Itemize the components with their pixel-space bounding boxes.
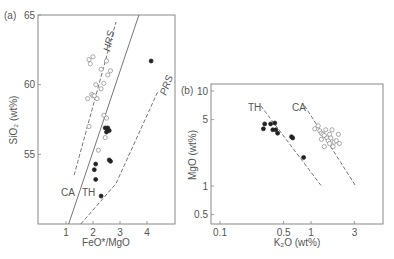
filled-circle-marker [269, 122, 273, 126]
y-tick-label: 0.5 [194, 209, 208, 220]
open-circle-marker [94, 83, 98, 87]
open-circle-marker [108, 69, 112, 73]
open-circle-marker [87, 58, 91, 62]
open-circle-marker [336, 132, 340, 136]
y-tick-label: 60 [24, 79, 36, 90]
th-annotation-b: TH [248, 102, 261, 113]
open-circle-marker [88, 62, 92, 66]
panel-a-ylabel: SiO₂ (wt%) [8, 96, 19, 145]
x-tick-label: 1 [63, 227, 69, 238]
y-tick-label: 10 [197, 86, 209, 97]
y-tick-label: 55 [24, 149, 36, 160]
filled-circle-marker [276, 131, 280, 135]
filled-circle-marker [263, 122, 267, 126]
y-tick-label: 65 [24, 10, 36, 21]
panel-b: 0.10.5130.51510 (b) K₂O (wt%) MgO (wt%) … [181, 84, 383, 248]
open-circle-marker [99, 87, 103, 91]
panel-b-label: (b) [181, 85, 193, 96]
x-tick-label: 3 [352, 227, 358, 238]
filled-circle-marker [109, 159, 113, 163]
panel-b-points [261, 121, 341, 159]
open-circle-marker [99, 67, 103, 71]
filled-circle-marker [261, 127, 265, 131]
panel-a-xlabel: FeO*/MgO [82, 237, 130, 248]
filled-circle-marker [107, 129, 111, 133]
filled-circle-marker [273, 121, 277, 125]
x-tick-label: 4 [144, 227, 150, 238]
prs-annotation: PRS [158, 73, 175, 96]
open-circle-marker [102, 81, 106, 85]
open-circle-marker [92, 94, 96, 98]
open-circle-marker [324, 128, 328, 132]
hrs-annotation: HRS [101, 29, 116, 52]
open-circle-marker [106, 73, 110, 77]
panel-a-label: (a) [4, 10, 16, 21]
ca-annotation-b: CA [292, 102, 306, 113]
x-tick-label: 0.1 [213, 227, 227, 238]
open-circle-marker [104, 116, 108, 120]
open-circle-marker [331, 145, 335, 149]
open-circle-marker [330, 128, 334, 132]
panel-b-xlabel: K₂O (wt%) [274, 237, 321, 248]
filled-circle-marker [302, 155, 306, 159]
open-circle-marker [337, 141, 341, 145]
ca-annotation-a: CA [61, 187, 75, 198]
panel-b-ylabel: MgO (wt%) [187, 130, 198, 180]
figure: 1234556065 (a) FeO*/MgO SiO₂ (wt%) HRS P… [0, 0, 394, 259]
open-circle-marker [91, 55, 95, 59]
th-annotation-a: TH [82, 187, 95, 198]
panel-b-lines [261, 106, 356, 186]
filled-circle-marker [99, 194, 103, 198]
open-circle-marker [329, 136, 333, 140]
y-tick-label: 1 [202, 181, 208, 192]
filled-circle-marker [92, 168, 96, 172]
panel-b-ticks: 0.10.5130.51510 [194, 86, 358, 239]
open-circle-marker [316, 124, 320, 128]
open-circle-marker [328, 141, 332, 145]
open-circle-marker [86, 97, 90, 101]
open-circle-marker [322, 145, 326, 149]
open-circle-marker [87, 124, 91, 128]
open-circle-marker [104, 59, 108, 63]
open-circle-marker [103, 136, 107, 140]
filled-circle-marker [94, 177, 98, 181]
open-circle-marker [96, 148, 100, 152]
filled-circle-marker [291, 136, 295, 140]
open-circle-marker [313, 127, 317, 131]
y-tick-label: 5 [202, 114, 208, 125]
panel-a: 1234556065 (a) FeO*/MgO SiO₂ (wt%) HRS P… [4, 10, 175, 249]
panel-a-ticks: 1234556065 [24, 10, 150, 239]
prs-line [81, 92, 158, 224]
open-circle-marker [319, 137, 323, 141]
filled-circle-marker [149, 59, 153, 63]
filled-circle-marker [94, 162, 98, 166]
